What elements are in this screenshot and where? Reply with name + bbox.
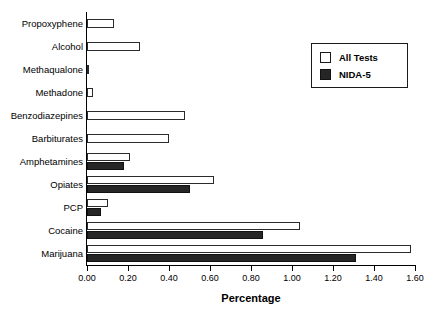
y-axis-label-benzodiazepines: Benzodiazepines (1, 111, 83, 121)
legend-item-nida-5: NIDA-5 (320, 66, 407, 83)
x-axis-title: Percentage (87, 292, 415, 304)
x-tick-6 (333, 266, 334, 271)
x-tick-label-0: 0.00 (67, 273, 107, 283)
x-tick-label-4: 0.80 (231, 273, 271, 283)
y-axis-label-marijuana: Marijuana (1, 249, 83, 259)
y-axis-label-methadone: Methadone (1, 88, 83, 98)
x-tick-5 (292, 266, 293, 271)
x-tick-label-7: 1.40 (354, 273, 394, 283)
x-tick-label-2: 0.40 (149, 273, 189, 283)
chart-figure: PropoxypheneAlcoholMethaqualoneMethadone… (0, 0, 439, 323)
x-tick-1 (128, 266, 129, 271)
chart-legend: All Tests NIDA-5 (311, 43, 408, 88)
y-axis-category-labels: PropoxypheneAlcoholMethaqualoneMethadone… (0, 12, 83, 265)
y-axis-label-methaqualone: Methaqualone (1, 65, 83, 75)
bar-benzodiazepines-all-tests (87, 111, 185, 120)
legend-label-nida-5: NIDA-5 (339, 69, 371, 80)
x-tick-0 (87, 266, 88, 271)
bar-cocaine-nida-5 (87, 231, 263, 240)
x-tick-label-5: 1.00 (272, 273, 312, 283)
x-tick-label-3: 0.60 (190, 273, 230, 283)
legend-swatch-nida-5 (320, 69, 331, 80)
x-tick-2 (169, 266, 170, 271)
x-tick-4 (251, 266, 252, 271)
bar-marijuana-nida-5 (87, 254, 356, 263)
bar-pcp-nida-5 (87, 208, 101, 217)
legend-item-all-tests: All Tests (320, 49, 407, 66)
bar-opiates-nida-5 (87, 185, 190, 194)
bar-marijuana-all-tests (87, 245, 411, 254)
bar-amphetamines-all-tests (87, 153, 130, 162)
y-axis-label-propoxyphene: Propoxyphene (1, 19, 83, 29)
y-axis-label-pcp: PCP (1, 203, 83, 213)
legend-swatch-all-tests (320, 52, 331, 63)
legend-label-all-tests: All Tests (339, 52, 378, 63)
bar-opiates-all-tests (87, 176, 214, 185)
bar-alcohol-all-tests (87, 42, 140, 51)
bar-methaqualone-all-tests (87, 65, 89, 74)
x-tick-8 (415, 266, 416, 271)
x-tick-label-8: 1.60 (395, 273, 435, 283)
y-axis-label-amphetamines: Amphetamines (1, 157, 83, 167)
x-tick-7 (374, 266, 375, 271)
bar-cocaine-all-tests (87, 222, 300, 231)
bar-pcp-all-tests (87, 199, 108, 208)
y-axis-label-alcohol: Alcohol (1, 42, 83, 52)
bar-barbiturates-all-tests (87, 134, 169, 143)
x-axis-ticks: 0.000.200.400.600.801.001.201.401.60 (0, 266, 439, 290)
x-tick-label-6: 1.20 (313, 273, 353, 283)
bar-methadone-all-tests (87, 88, 93, 97)
bar-propoxyphene-all-tests (87, 19, 114, 28)
y-axis-label-cocaine: Cocaine (1, 226, 83, 236)
y-axis-label-barbiturates: Barbiturates (1, 134, 83, 144)
y-axis-label-opiates: Opiates (1, 180, 83, 190)
x-tick-3 (210, 266, 211, 271)
bar-amphetamines-nida-5 (87, 162, 124, 171)
x-tick-label-1: 0.20 (108, 273, 148, 283)
